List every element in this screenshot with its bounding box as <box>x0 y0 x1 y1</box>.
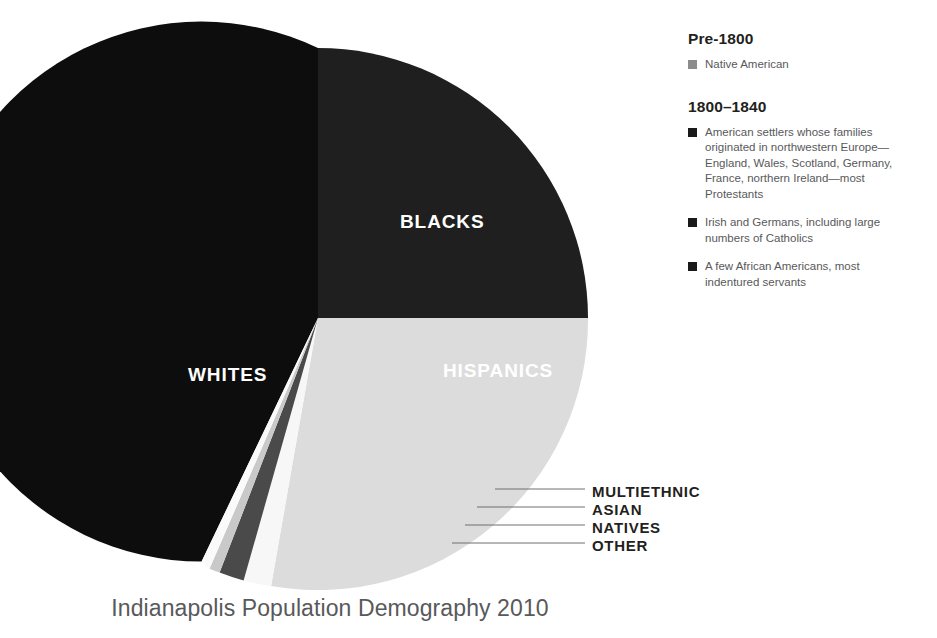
pie-callout-other: OTHER <box>592 536 648 555</box>
legend-item-label: A few African Americans, most indentured… <box>705 259 913 290</box>
pie-label-hispanics: HISPANICS <box>443 360 553 382</box>
pie-label-blacks: BLACKS <box>400 211 485 233</box>
legend-heading-1800-1840: 1800–1840 <box>688 98 913 116</box>
legend-group-pre-1800: Pre-1800 Native American <box>688 30 913 73</box>
legend-swatch-icon <box>688 218 697 227</box>
pie-callout-natives: NATIVES <box>592 518 661 537</box>
legend-panel: Pre-1800 Native American 1800–1840 Ameri… <box>688 30 913 290</box>
pie-chart-svg <box>0 0 680 638</box>
pie-callout-multiethnic: MULTIETHNIC <box>592 482 700 501</box>
chart-title: Indianapolis Population Demography 2010 <box>0 595 660 622</box>
pie-callout-asian: ASIAN <box>592 500 642 519</box>
legend-item-label: American settlers whose families origina… <box>705 125 913 203</box>
legend-heading-pre-1800: Pre-1800 <box>688 30 913 48</box>
pie-label-whites: WHITES <box>188 364 267 386</box>
legend-swatch-icon <box>688 60 697 69</box>
legend-item[interactable]: American settlers whose families origina… <box>688 125 913 203</box>
legend-item-label: Irish and Germans, including large numbe… <box>705 215 913 246</box>
legend-group-1800-1840: 1800–1840 American settlers whose famili… <box>688 98 913 291</box>
pie-slice-hispanics[interactable] <box>271 318 588 590</box>
legend-item-label: Native American <box>705 57 789 73</box>
legend-item[interactable]: Native American <box>688 57 913 73</box>
legend-swatch-icon <box>688 128 697 137</box>
legend-item[interactable]: Irish and Germans, including large numbe… <box>688 215 913 246</box>
pie-slice-blacks[interactable] <box>318 48 588 318</box>
pie-chart-area: WHITES BLACKS HISPANICS MULTIETHNIC ASIA… <box>0 0 680 638</box>
legend-item[interactable]: A few African Americans, most indentured… <box>688 259 913 290</box>
legend-swatch-icon <box>688 262 697 271</box>
